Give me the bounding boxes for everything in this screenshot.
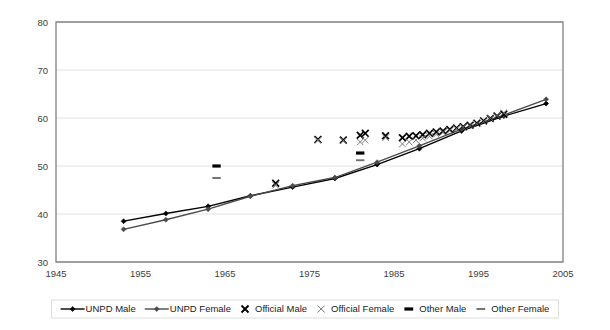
legend-label: UNPD Male [86, 303, 136, 314]
x-tick-label-1955: 1955 [130, 268, 151, 279]
x-tick-label-1965: 1965 [214, 268, 235, 279]
x-tick-label-1975: 1975 [299, 268, 320, 279]
legend-label: Official Female [331, 303, 394, 314]
y-tick-label-70: 70 [37, 65, 48, 76]
y-tick-label-80: 80 [37, 17, 48, 28]
x-tick-label-2005: 2005 [552, 268, 573, 279]
x-tick-label-1985: 1985 [383, 268, 404, 279]
legend-label: Official Male [255, 303, 307, 314]
y-tick-label-40: 40 [37, 209, 48, 220]
chart-canvas: 3040506070801945195519651975198519952005… [0, 0, 610, 330]
plot-area [56, 22, 563, 262]
x-tick-label-1995: 1995 [468, 268, 489, 279]
legend-label: Other Male [419, 303, 466, 314]
life-expectancy-chart: 3040506070801945195519651975198519952005… [0, 0, 610, 330]
y-tick-label-50: 50 [37, 161, 48, 172]
x-tick-label-1945: 1945 [45, 268, 66, 279]
legend-label: UNPD Female [170, 303, 231, 314]
legend-label: Other Female [491, 303, 549, 314]
y-tick-label-60: 60 [37, 113, 48, 124]
y-tick-label-30: 30 [37, 257, 48, 268]
